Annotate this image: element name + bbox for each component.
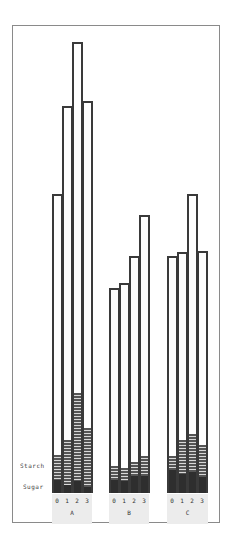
tick-label: 0	[52, 497, 62, 504]
segment-sugar	[179, 474, 186, 493]
segment-sugar	[141, 476, 148, 493]
segment-sugar	[111, 480, 118, 493]
group-label-c: C	[167, 509, 208, 516]
segment-sugar	[169, 470, 176, 493]
segment-sugar	[64, 485, 71, 493]
segment-sugar	[189, 472, 196, 493]
tick-label: 2	[187, 497, 197, 504]
tick-label: 3	[139, 497, 149, 504]
tick-label: 1	[62, 497, 72, 504]
tick-label: 1	[177, 497, 187, 504]
bar-a-3	[82, 101, 93, 493]
bar-c-3	[197, 251, 208, 493]
tick-label: 2	[129, 497, 139, 504]
tick-label: 3	[197, 497, 207, 504]
tick-label: 2	[72, 497, 82, 504]
tick-label: 3	[82, 497, 92, 504]
group-label-b: B	[109, 509, 149, 516]
segment-sugar	[199, 477, 206, 493]
segment-starch	[74, 393, 81, 493]
group-axis-b: 0 1 2 3 B	[109, 494, 149, 524]
legend-label-starch: Starch	[20, 462, 45, 469]
group-axis-c: 0 1 2 3 C	[167, 494, 208, 524]
segment-sugar	[84, 487, 91, 493]
bar-b-3	[139, 215, 150, 493]
segment-starch	[84, 428, 91, 493]
tick-label: 0	[109, 497, 119, 504]
group-label-a: A	[52, 509, 92, 516]
segment-sugar	[131, 476, 138, 493]
group-axis-a: 0 1 2 3 A	[52, 494, 92, 524]
legend-label-sugar: Sugar	[23, 483, 44, 490]
segment-sugar	[74, 481, 81, 493]
tick-label: 1	[119, 497, 129, 504]
segment-sugar	[54, 480, 61, 493]
tick-label: 0	[167, 497, 177, 504]
segment-sugar	[121, 481, 128, 493]
